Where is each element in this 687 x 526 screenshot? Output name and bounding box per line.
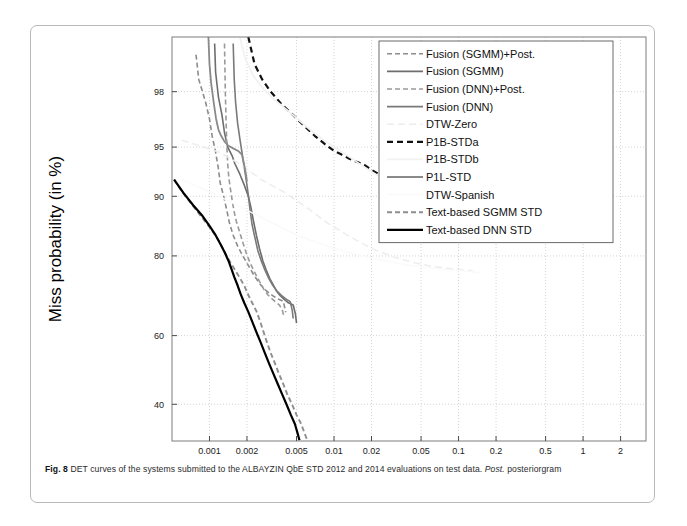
series-curve-10 [174,180,299,441]
x-tick-label: 0.01 [325,446,343,456]
figure-number: Fig. 8 [45,464,68,474]
figure-card: 0.0010.0020.0050.010.020.050.10.20.51298… [30,25,655,503]
legend-item-label: Text-based SGMM STD [426,206,542,218]
x-tick-label: 2 [618,446,623,456]
legend-item-label: P1B-STDa [426,136,479,148]
legend-item-label: Fusion (DNN) [426,101,493,113]
legend-item-label: P1B-STDb [426,153,479,165]
x-tick-label: 0.2 [490,446,503,456]
x-tick-label: 0.005 [285,446,308,456]
legend-item-label: Fusion (SGMM) [426,65,504,77]
x-tick-label: 0.02 [363,446,381,456]
y-tick-label: 95 [154,142,164,152]
series-curve-9 [174,180,307,441]
caption-tail: posteriorgram [505,464,562,474]
legend-item-label: Text-based DNN STD [426,224,532,236]
y-tick-label: 98 [154,87,164,97]
caption-italic-term: Post. [485,464,505,474]
x-tick-label: 1 [581,446,586,456]
caption-body: DET curves of the systems submitted to t… [68,464,485,474]
x-tick-label: 0.05 [412,446,430,456]
y-tick-label: 80 [154,251,164,261]
legend-item-label: DTW-Zero [426,118,477,130]
legend-item-label: Fusion (DNN)+Post. [426,83,525,95]
legend: Fusion (SGMM)+Post.Fusion (SGMM)Fusion (… [379,41,613,243]
det-plot: 0.0010.0020.0050.010.020.050.10.20.51298… [31,26,656,458]
series-curve-1 [215,44,297,324]
x-tick-label: 0.1 [452,446,465,456]
x-tick-label: 0.002 [236,446,259,456]
legend-item-label: Fusion (SGMM)+Post. [426,48,535,60]
x-tick-label: 0.001 [198,446,221,456]
legend-item-label: DTW-Spanish [426,189,494,201]
legend-item-label: P1L-STD [426,171,471,183]
y-axis-label: Miss probability (in %) [46,156,65,322]
figure-caption: Fig. 8 DET curves of the systems submitt… [45,464,645,476]
y-tick-label: 60 [154,331,164,341]
y-tick-label: 40 [154,400,164,410]
y-tick-label: 90 [154,192,164,202]
x-tick-label: 0.5 [539,446,552,456]
det-chart-svg: 0.0010.0020.0050.010.020.050.10.20.51298… [31,26,656,458]
